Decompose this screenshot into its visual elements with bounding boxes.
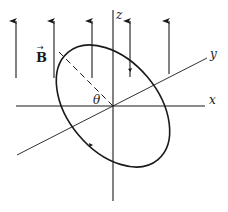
loop-in-field-diagram: → B θ z y x	[0, 0, 228, 212]
loop-normal-dashed	[59, 52, 113, 106]
axis-label-x: x	[209, 94, 216, 106]
axis-label-z: z	[116, 9, 122, 21]
diagram-canvas	[0, 0, 228, 212]
field-label-b: B	[36, 51, 47, 64]
angle-label-theta: θ	[93, 94, 100, 106]
current-direction-mark-icon	[89, 143, 93, 147]
axis-label-y: y	[210, 48, 217, 60]
